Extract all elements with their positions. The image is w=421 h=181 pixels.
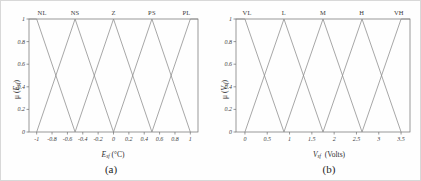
plot-frame <box>29 19 198 132</box>
x-tick-label: -0.6 <box>63 136 73 142</box>
fuzzy-set-label-z: Z <box>111 9 115 16</box>
x-tick-label: 1 <box>189 136 192 142</box>
x-axis-title-b: Vsf (Volts) <box>313 150 345 159</box>
y-axis-mu-b: μ ( <box>220 91 229 99</box>
x-tick-label: 3.5 <box>397 136 405 142</box>
y-tick-label: 0.8 <box>13 39 25 45</box>
chart-panel-a: -1-0.8-0.6-0.4-0.200.20.40.60.8100.20.40… <box>1 1 211 181</box>
fuzzy-set-label-ns: NS <box>71 9 80 16</box>
x-tick-label: -1 <box>34 136 39 142</box>
y-tick-label: 0 <box>13 129 25 135</box>
y-tick-label: 0.2 <box>13 106 25 112</box>
x-tick-label: 1 <box>288 136 291 142</box>
y-axis-close-a: ) <box>12 80 21 83</box>
fuzzy-set-label-vh: VH <box>394 9 404 16</box>
fuzzy-set-label-pl: PL <box>182 9 190 16</box>
y-tick-label: 0.6 <box>13 61 25 67</box>
y-tick-label: 1 <box>220 16 232 22</box>
membership-curve-l <box>245 19 323 132</box>
membership-curve-vh <box>362 19 410 132</box>
fuzzy-set-label-ps: PS <box>148 9 156 16</box>
y-axis-title-b: μ (Vsf) <box>220 80 229 99</box>
plot-b-drawing <box>234 19 411 135</box>
x-tick-label: -0.2 <box>93 136 103 142</box>
x-tick-label: 0 <box>243 136 246 142</box>
plot-frame <box>236 19 410 132</box>
y-axis-var-b: V <box>220 86 229 91</box>
x-tick-label: 1.5 <box>308 136 316 142</box>
x-tick-label: 0.8 <box>171 136 179 142</box>
subcaption-a: (a) <box>105 163 117 175</box>
membership-curve-ps <box>114 19 191 132</box>
y-tick-label: 0 <box>220 129 232 135</box>
fuzzy-set-label-nl: NL <box>38 9 47 16</box>
y-axis-var-a: E <box>12 86 21 91</box>
plot-a-drawing <box>27 19 199 135</box>
fuzzy-set-label-vl: VL <box>243 9 252 16</box>
x-tick-label: 2 <box>333 136 336 142</box>
membership-curve-vl <box>236 19 284 132</box>
x-tick-label: -0.8 <box>47 136 57 142</box>
x-tick-label: 0.5 <box>263 136 271 142</box>
y-axis-close-b: ) <box>220 80 229 83</box>
x-axis-sub-b: sf <box>318 153 321 159</box>
membership-curve-z <box>75 19 152 132</box>
membership-curve-nl <box>29 19 75 132</box>
x-axis-title-a: Esf (°C) <box>102 150 125 159</box>
x-tick-label: 2.5 <box>353 136 361 142</box>
y-axis-title-a: μ (Esf) <box>12 80 21 99</box>
membership-curve-m <box>284 19 362 132</box>
fuzzy-set-label-l: L <box>282 9 286 16</box>
y-axis-mu-a: μ ( <box>12 91 21 99</box>
x-axis-sub-a: sf <box>106 153 109 159</box>
membership-curve-ns <box>37 19 114 132</box>
y-tick-label: 0.6 <box>220 61 232 67</box>
x-tick-label: 0.4 <box>140 136 148 142</box>
subcaption-b: (b) <box>323 163 336 175</box>
x-tick-label: 0.6 <box>156 136 164 142</box>
x-tick-label: -0.4 <box>78 136 88 142</box>
x-tick-label: 0 <box>112 136 115 142</box>
y-tick-label: 1 <box>13 16 25 22</box>
x-tick-label: 3 <box>377 136 380 142</box>
membership-curve-pl <box>152 19 198 132</box>
fuzzy-set-label-h: H <box>359 9 364 16</box>
x-tick-label: 0.2 <box>125 136 133 142</box>
y-tick-label: 0.2 <box>220 106 232 112</box>
y-axis-sub-b: sf <box>223 83 229 86</box>
x-axis-unit-a: (°C) <box>111 150 124 159</box>
y-tick-label: 0.8 <box>220 39 232 45</box>
y-axis-sub-a: sf <box>15 83 21 86</box>
figure-container: -1-0.8-0.6-0.4-0.200.20.40.60.8100.20.40… <box>0 0 421 181</box>
x-axis-unit-b: (Volts) <box>325 150 345 159</box>
membership-curve-h <box>323 19 401 132</box>
fuzzy-set-label-m: M <box>320 9 326 16</box>
chart-panel-b: 00.511.522.533.500.20.40.60.81VLLMHVH Vs… <box>211 1 421 181</box>
